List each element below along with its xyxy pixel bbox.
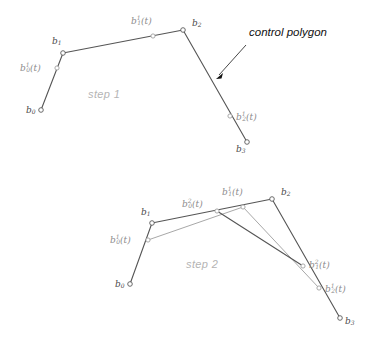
control-polygon-annotation-text: control polygon <box>249 26 327 38</box>
step1-vertex-b2[interactable] <box>181 28 186 33</box>
step1-vertex-b0[interactable] <box>39 108 44 113</box>
step1-label-b2-1: b12(t) <box>236 109 257 122</box>
step-2-group: b0 b1 b2 b3 b10(t) b11(t) b12(t) b20(t) … <box>110 184 355 326</box>
bezier-de-casteljau-diagram: b0 b1 b2 b3 b10(t) b11(t) b12(t) step 1 … <box>0 0 374 357</box>
step2-label-b2-1: b12(t) <box>325 281 346 294</box>
step2-label-b0-2: b20(t) <box>182 196 203 209</box>
step2-label-b1-1: b11(t) <box>222 184 243 197</box>
step1-label-b1-1: b11(t) <box>131 13 152 26</box>
step1-vertex-b1[interactable] <box>61 51 66 56</box>
step1-point-b0-1[interactable] <box>55 66 59 70</box>
step2-point-b1-1[interactable] <box>241 205 245 209</box>
step2-label-b0-1: b10(t) <box>110 232 131 245</box>
step2-caption: step 2 <box>186 258 218 270</box>
step2-vertex-b1[interactable] <box>150 221 155 226</box>
control-polygon-annotation: control polygon <box>249 26 327 38</box>
step1-vertex-b3[interactable] <box>245 140 250 145</box>
step1-label-b3: b3 <box>236 144 246 154</box>
step2-label-b1: b1 <box>141 207 151 217</box>
step1-label-b0: b0 <box>26 105 36 115</box>
step2-control-polygon <box>130 199 340 318</box>
step2-label-b3: b3 <box>345 316 355 326</box>
step2-vertex-b2[interactable] <box>270 197 275 202</box>
step1-label-b0-1: b10(t) <box>20 60 41 73</box>
step1-point-b1-1[interactable] <box>151 34 155 38</box>
step2-point-b1-2[interactable] <box>301 264 305 268</box>
step1-point-b2-1[interactable] <box>228 114 232 118</box>
step2-label-b0: b0 <box>115 279 125 289</box>
step2-point-b0-2[interactable] <box>215 209 219 213</box>
annotation-leader-line <box>219 45 246 75</box>
step2-label-b2: b2 <box>281 187 291 197</box>
step2-label-b1-2: b21(t) <box>309 257 330 270</box>
step2-point-b2-1[interactable] <box>317 286 321 290</box>
step1-caption: step 1 <box>88 88 120 100</box>
step2-vertex-b0[interactable] <box>128 282 133 287</box>
step2-vertex-b3[interactable] <box>338 316 343 321</box>
step1-label-b1: b1 <box>52 36 62 46</box>
step2-level2-polyline <box>217 211 303 266</box>
step-1-group: b0 b1 b2 b3 b10(t) b11(t) b12(t) step 1 … <box>20 13 327 154</box>
step2-point-b0-1[interactable] <box>146 238 150 242</box>
step1-label-b2: b2 <box>192 18 202 28</box>
step1-control-polygon <box>41 30 247 142</box>
